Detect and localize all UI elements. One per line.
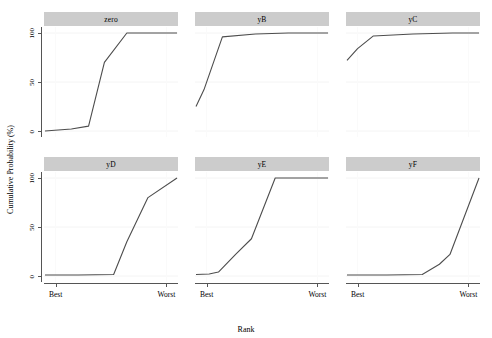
x-axis-line — [44, 283, 178, 284]
y-tick-100: 100 — [20, 33, 42, 34]
y-axis-zero: 050100 — [20, 27, 42, 137]
series-line-yC — [347, 33, 479, 60]
plot-area-yE — [195, 172, 329, 282]
series-svg-zero — [44, 27, 178, 137]
y-tick-mark — [38, 276, 42, 277]
x-tick-label-worst: Worst — [460, 290, 478, 299]
x-axis-yF: BestWorst — [346, 283, 480, 305]
panel-strip-label-yF: yF — [346, 157, 480, 171]
x-tick-mark-worst — [317, 283, 318, 287]
x-tick-label-worst: Worst — [309, 290, 327, 299]
series-svg-yF — [346, 172, 480, 282]
y-tick-label: 50 — [29, 224, 36, 231]
x-axis-line — [346, 283, 480, 284]
series-svg-yE — [195, 172, 329, 282]
panel-yC: yC — [346, 12, 480, 137]
series-svg-yB — [195, 27, 329, 137]
y-tick-0: 0 — [20, 276, 42, 277]
panel-strip-label-yC: yC — [346, 12, 480, 26]
y-tick-50: 50 — [20, 227, 42, 228]
y-tick-100: 100 — [20, 178, 42, 179]
y-tick-50: 50 — [20, 82, 42, 83]
x-axis-title: Rank — [0, 325, 492, 334]
x-tick-mark-worst — [166, 283, 167, 287]
panel-strip-label-yB: yB — [195, 12, 329, 26]
y-tick-mark — [38, 227, 42, 228]
x-tick-mark-worst — [468, 283, 469, 287]
panel-strip-label-yE: yE — [195, 157, 329, 171]
y-tick-label: 100 — [29, 28, 36, 39]
y-tick-label: 50 — [29, 79, 36, 86]
x-tick-label-best: Best — [49, 290, 62, 299]
x-axis-line — [195, 283, 329, 284]
plot-area-yB — [195, 27, 329, 137]
panel-yE: yEBestWorst — [195, 157, 329, 282]
y-tick-label: 0 — [29, 275, 36, 279]
plot-area-zero — [44, 27, 178, 137]
plot-area-yD — [44, 172, 178, 282]
panel-yF: yFBestWorst — [346, 157, 480, 282]
x-tick-label-best: Best — [200, 290, 213, 299]
y-tick-mark — [38, 178, 42, 179]
series-svg-yD — [44, 172, 178, 282]
panel-grid: zero050100yByCyD050100BestWorstyEBestWor… — [44, 12, 480, 300]
y-tick-0: 0 — [20, 131, 42, 132]
series-svg-yC — [346, 27, 480, 137]
x-tick-label-best: Best — [351, 290, 364, 299]
panel-zero: zero050100 — [44, 12, 178, 137]
x-axis-title-text: Rank — [238, 325, 255, 334]
x-axis-yE: BestWorst — [195, 283, 329, 305]
panel-yB: yB — [195, 12, 329, 137]
panel-strip-label-zero: zero — [44, 12, 178, 26]
x-tick-label-worst: Worst — [158, 290, 176, 299]
y-tick-mark — [38, 82, 42, 83]
x-axis-yD: BestWorst — [44, 283, 178, 305]
y-axis-title-text: Cumulative Probability (%) — [6, 125, 15, 214]
x-tick-mark-best — [358, 283, 359, 287]
x-tick-mark-best — [56, 283, 57, 287]
figure-root: Cumulative Probability (%) zero050100yBy… — [0, 0, 492, 338]
panel-strip-label-yD: yD — [44, 157, 178, 171]
x-tick-mark-best — [207, 283, 208, 287]
plot-area-yC — [346, 27, 480, 137]
plot-area-yF — [346, 172, 480, 282]
y-tick-mark — [38, 33, 42, 34]
y-tick-mark — [38, 131, 42, 132]
y-tick-label: 0 — [29, 130, 36, 134]
panel-yD: yD050100BestWorst — [44, 157, 178, 282]
y-tick-label: 100 — [29, 173, 36, 184]
series-line-yB — [196, 33, 328, 107]
y-axis-yD: 050100 — [20, 172, 42, 282]
series-line-yE — [196, 178, 328, 275]
y-axis-title: Cumulative Probability (%) — [2, 0, 18, 338]
